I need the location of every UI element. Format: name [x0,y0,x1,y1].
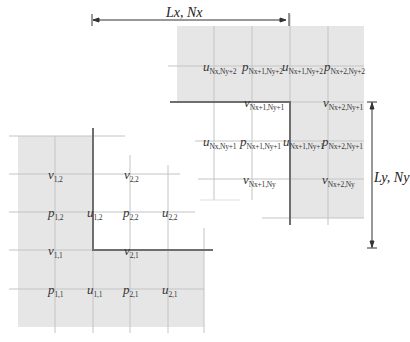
label-v-1-1: v1,1 [48,244,63,260]
label-p-1-1: p1,1 [48,283,63,299]
top-right-ghost-region [177,26,364,218]
label-p-2-2: p2,2 [123,206,138,222]
label-v-2-1: v2,1 [124,244,139,260]
label-p-nx1-ny1: pNx+1,Ny+1 [240,135,281,151]
label-u-nx1-ny1: uNx+1,Ny+1 [283,135,324,151]
label-v-nx1-ny: vNx+1,Ny [243,173,276,189]
label-v-1-2: v1,2 [48,168,63,184]
label-u-2-1: u2,1 [162,283,177,299]
label-p-1-2: p1,2 [48,206,63,222]
bottom-left-wall [93,128,213,250]
label-u-1-1: u1,1 [87,283,102,299]
label-u-nx1-ny2: uNx+1,Ny+2 [282,60,323,76]
horizontal-dimension-label: Lx, Nx [166,5,203,21]
label-v-2-2: v2,2 [124,168,139,184]
label-u-nx-ny1: uNx,Ny+1 [203,135,236,151]
label-v-nx1-ny1: vNx+1,Ny+1 [244,96,284,112]
label-p-nx2-ny2: pNx+2,Ny+2 [324,60,365,76]
top-right-wall [170,102,290,225]
label-p-nx2-ny1: pNx+2,Ny+1 [322,135,363,151]
label-v-nx2-ny1: vNx+2,Ny+1 [323,96,363,112]
label-u-nx-ny2: uNx,Ny+2 [203,60,236,76]
label-u-1-2: u1,2 [87,206,102,222]
label-p-nx1-ny2: pNx+1,Ny+2 [242,60,283,76]
label-p-2-1: p2,1 [123,283,138,299]
label-v-nx2-ny: vNx+2,Ny [322,173,355,189]
label-u-2-2: u2,2 [162,206,177,222]
vertical-dimension-label: Ly, Ny [374,170,409,186]
